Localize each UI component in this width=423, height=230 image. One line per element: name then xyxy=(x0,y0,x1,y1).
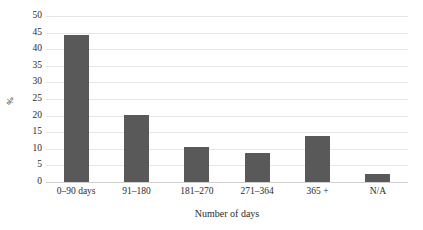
x-axis-title: Number of days xyxy=(46,208,408,220)
y-axis-tick-label: 35 xyxy=(20,61,42,71)
bar-chart: % 05101520253035404550 0–90 days91–18018… xyxy=(0,0,423,230)
x-axis-tick-label: N/A xyxy=(343,186,413,197)
y-axis-tick-label: 15 xyxy=(20,127,42,137)
bar xyxy=(64,35,89,182)
y-axis-tick-label: 0 xyxy=(20,177,42,187)
y-axis-tick-label: 45 xyxy=(20,28,42,38)
y-axis-tick-label: 40 xyxy=(20,44,42,54)
y-axis-tick-label: 25 xyxy=(20,94,42,104)
bars-layer xyxy=(46,16,408,182)
y-axis-tick-label: 5 xyxy=(20,160,42,170)
y-axis-tick-label: 10 xyxy=(20,144,42,154)
y-axis-tick-label: 50 xyxy=(20,11,42,21)
y-axis-tick-label: 20 xyxy=(20,111,42,121)
y-axis-title: % xyxy=(5,93,15,109)
bar xyxy=(245,153,270,182)
y-axis-tick-label: 30 xyxy=(20,77,42,87)
bar xyxy=(305,136,330,182)
plot-area xyxy=(46,16,408,182)
bar xyxy=(365,174,390,182)
bar xyxy=(184,147,209,182)
bar xyxy=(124,115,149,182)
gridline xyxy=(46,182,408,183)
